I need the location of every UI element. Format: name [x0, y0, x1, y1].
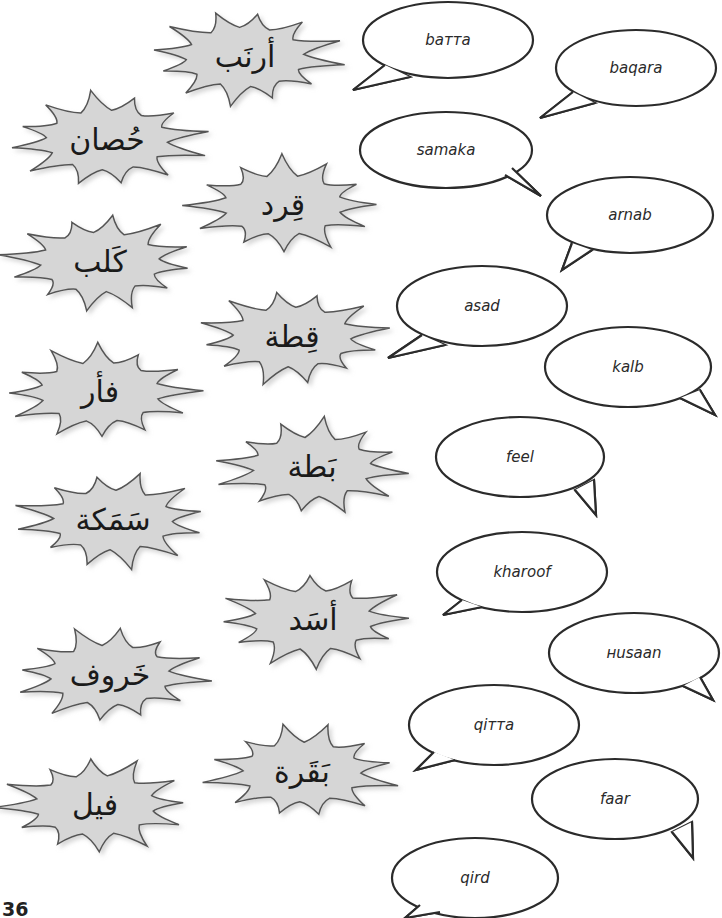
transliteration-word: baттa — [425, 33, 470, 48]
speech-bubble — [436, 417, 604, 515]
speech-bubble — [547, 177, 713, 270]
transliteration-speech-bubbles — [353, 2, 719, 918]
arabic-word: فيل — [72, 790, 118, 820]
arabic-word: حُصان — [69, 125, 145, 155]
transliteration-word: arnab — [608, 208, 652, 223]
arabic-word: خَروف — [70, 660, 151, 690]
transliteration-word: kharoof — [493, 565, 550, 580]
speech-bubble — [532, 759, 698, 858]
transliteration-word: нusaan — [606, 646, 661, 661]
transliteration-word: kalb — [612, 360, 644, 375]
arabic-word: بَطة — [287, 452, 336, 482]
arabic-word: أرنَب — [215, 42, 276, 72]
transliteration-word: samaka — [417, 143, 476, 158]
transliteration-word: asad — [464, 299, 500, 314]
arabic-word: بَقَرة — [274, 757, 330, 787]
arabic-word: قِرد — [261, 190, 305, 220]
transliteration-word: faar — [600, 792, 630, 807]
arabic-word: سَمَكة — [75, 505, 150, 535]
matching-worksheet: أرنَبحُصانقِردكَلبقِطةفأربَطةسَمَكةأسَدخ… — [0, 0, 722, 918]
transliteration-word: qird — [460, 871, 489, 886]
arabic-word: كَلب — [73, 247, 127, 277]
arabic-word: أسَد — [288, 605, 337, 635]
transliteration-word: qiттa — [474, 718, 514, 733]
arabic-word: قِطة — [264, 322, 319, 352]
arabic-word-starbursts — [0, 13, 409, 852]
transliteration-word: baqara — [610, 61, 663, 76]
arabic-word: فأر — [81, 377, 119, 407]
transliteration-word: feel — [506, 450, 534, 465]
page-number: 36 — [2, 898, 28, 918]
